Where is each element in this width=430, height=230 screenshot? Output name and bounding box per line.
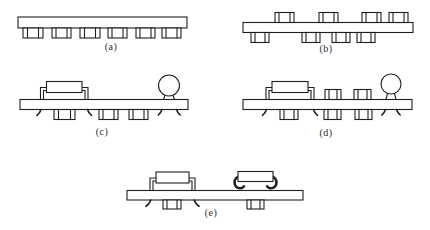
panel-c: (c) (20, 75, 188, 138)
smt-chip (54, 110, 75, 120)
smt-chip (357, 33, 375, 43)
smt-chip (136, 28, 155, 38)
panel-d: (d) (243, 74, 412, 139)
smt-chip (362, 13, 381, 23)
clinched-lead (314, 110, 318, 116)
smt-chip (80, 28, 100, 38)
clinched-lead (194, 200, 199, 206)
panel-b: (b) (243, 13, 413, 56)
smt-chip (354, 90, 371, 100)
panel-e: (e) (127, 172, 303, 220)
smt-chip (108, 28, 127, 38)
smt-chip (302, 33, 320, 43)
clinched-lead (382, 110, 386, 115)
radial-body (381, 74, 401, 94)
clinched-lead (158, 110, 162, 115)
circuit-board (243, 100, 412, 110)
clinched-lead (146, 200, 151, 206)
clinched-lead (263, 110, 267, 116)
smt-chip (280, 110, 298, 120)
smt-chip (332, 33, 350, 43)
smt-chip (52, 28, 71, 38)
j-lead-component (234, 172, 276, 189)
panel-d-label: (d) (319, 127, 332, 139)
dip-body (47, 82, 83, 93)
smt-chip (23, 28, 43, 38)
smt-chip (129, 110, 148, 120)
smt-assembly-diagram: (a) (b) (0, 0, 430, 230)
panel-e-label: (e) (205, 207, 218, 219)
smt-chip (251, 33, 269, 43)
circuit-board (18, 17, 187, 28)
smt-chip (99, 110, 118, 120)
smt-chip (389, 13, 408, 23)
smt-chip (247, 200, 264, 209)
j-lead-body (238, 172, 273, 182)
panel-a: (a) (18, 17, 187, 53)
smt-chip (325, 90, 341, 100)
clinched-lead (88, 110, 92, 116)
smt-chip (275, 13, 294, 23)
circuit-board (127, 191, 303, 201)
clinched-lead (177, 110, 181, 115)
clinched-lead (397, 110, 401, 115)
dip-body (156, 172, 189, 183)
smt-chip (355, 110, 372, 120)
smt-chip (162, 28, 181, 38)
panel-a-label: (a) (105, 41, 118, 53)
smt-chip (324, 110, 341, 120)
panel-b-label: (b) (319, 43, 332, 55)
radial-body (159, 75, 180, 96)
smt-chip (319, 13, 338, 23)
clinched-lead (37, 110, 41, 116)
circuit-board (20, 100, 188, 110)
panel-c-label: (c) (96, 126, 109, 138)
smt-chip (163, 200, 181, 209)
dip-body (272, 82, 308, 93)
circuit-board (243, 23, 413, 33)
diagram-canvas: (a) (b) (0, 0, 430, 230)
